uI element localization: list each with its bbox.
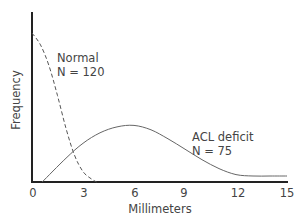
y-axis-label: Frequency — [11, 70, 23, 129]
x-tick-6: 6 — [131, 188, 138, 200]
chart-canvas — [0, 0, 306, 221]
acl-annotation: ACL deficit N = 75 — [192, 130, 253, 158]
acl-series-name: ACL deficit — [192, 130, 253, 144]
x-tick-15: 15 — [280, 188, 295, 200]
normal-series-name: Normal — [57, 51, 105, 65]
normal-series-count: N = 120 — [57, 65, 105, 79]
x-tick-0: 0 — [29, 188, 36, 200]
x-tick-9: 9 — [180, 188, 187, 200]
acl-series-count: N = 75 — [192, 144, 253, 158]
x-tick-12: 12 — [231, 188, 246, 200]
x-tick-3: 3 — [80, 188, 87, 200]
normal-annotation: Normal N = 120 — [57, 51, 105, 79]
x-axis-label: Millimeters — [128, 204, 191, 216]
